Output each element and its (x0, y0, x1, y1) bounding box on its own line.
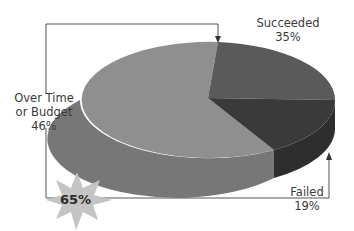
label-over-line2: or Budget (4, 105, 84, 119)
label-failed-name: Failed (282, 185, 332, 199)
arrow-up-icon (326, 152, 332, 160)
label-succeeded-pct: 35% (248, 30, 328, 44)
label-succeeded-name: Succeeded (248, 16, 328, 30)
slice-succeeded (208, 42, 335, 100)
label-succeeded: Succeeded 35% (248, 16, 328, 44)
label-over-line1: Over Time (4, 91, 84, 105)
label-over-pct: 46% (4, 119, 84, 133)
label-failed-pct: 19% (282, 199, 332, 213)
star-value: 65% (60, 192, 91, 207)
label-over: Over Time or Budget 46% (4, 91, 84, 133)
label-failed: Failed 19% (282, 185, 332, 213)
